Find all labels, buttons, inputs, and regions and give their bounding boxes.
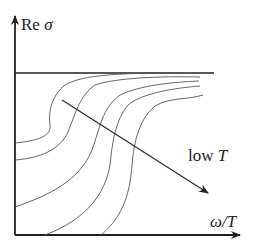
y-axis-label-symbol: σ [44,15,53,34]
y-axis-label-prefix: Re [21,15,40,34]
arrow-label: low T [188,146,229,165]
y-axis-label: Re σ [21,15,53,34]
curve-1 [15,73,150,143]
arrow-label-prefix: low [188,146,214,165]
curve-4 [45,86,200,235]
low-temperature-arrow [62,100,208,193]
conductivity-diagram: Re σ ω/T low T [0,0,253,249]
curve-family [15,73,203,235]
arrow-label-symbol: T [218,146,229,165]
curve-5 [101,95,203,235]
x-axis-label: ω/T [210,212,238,231]
